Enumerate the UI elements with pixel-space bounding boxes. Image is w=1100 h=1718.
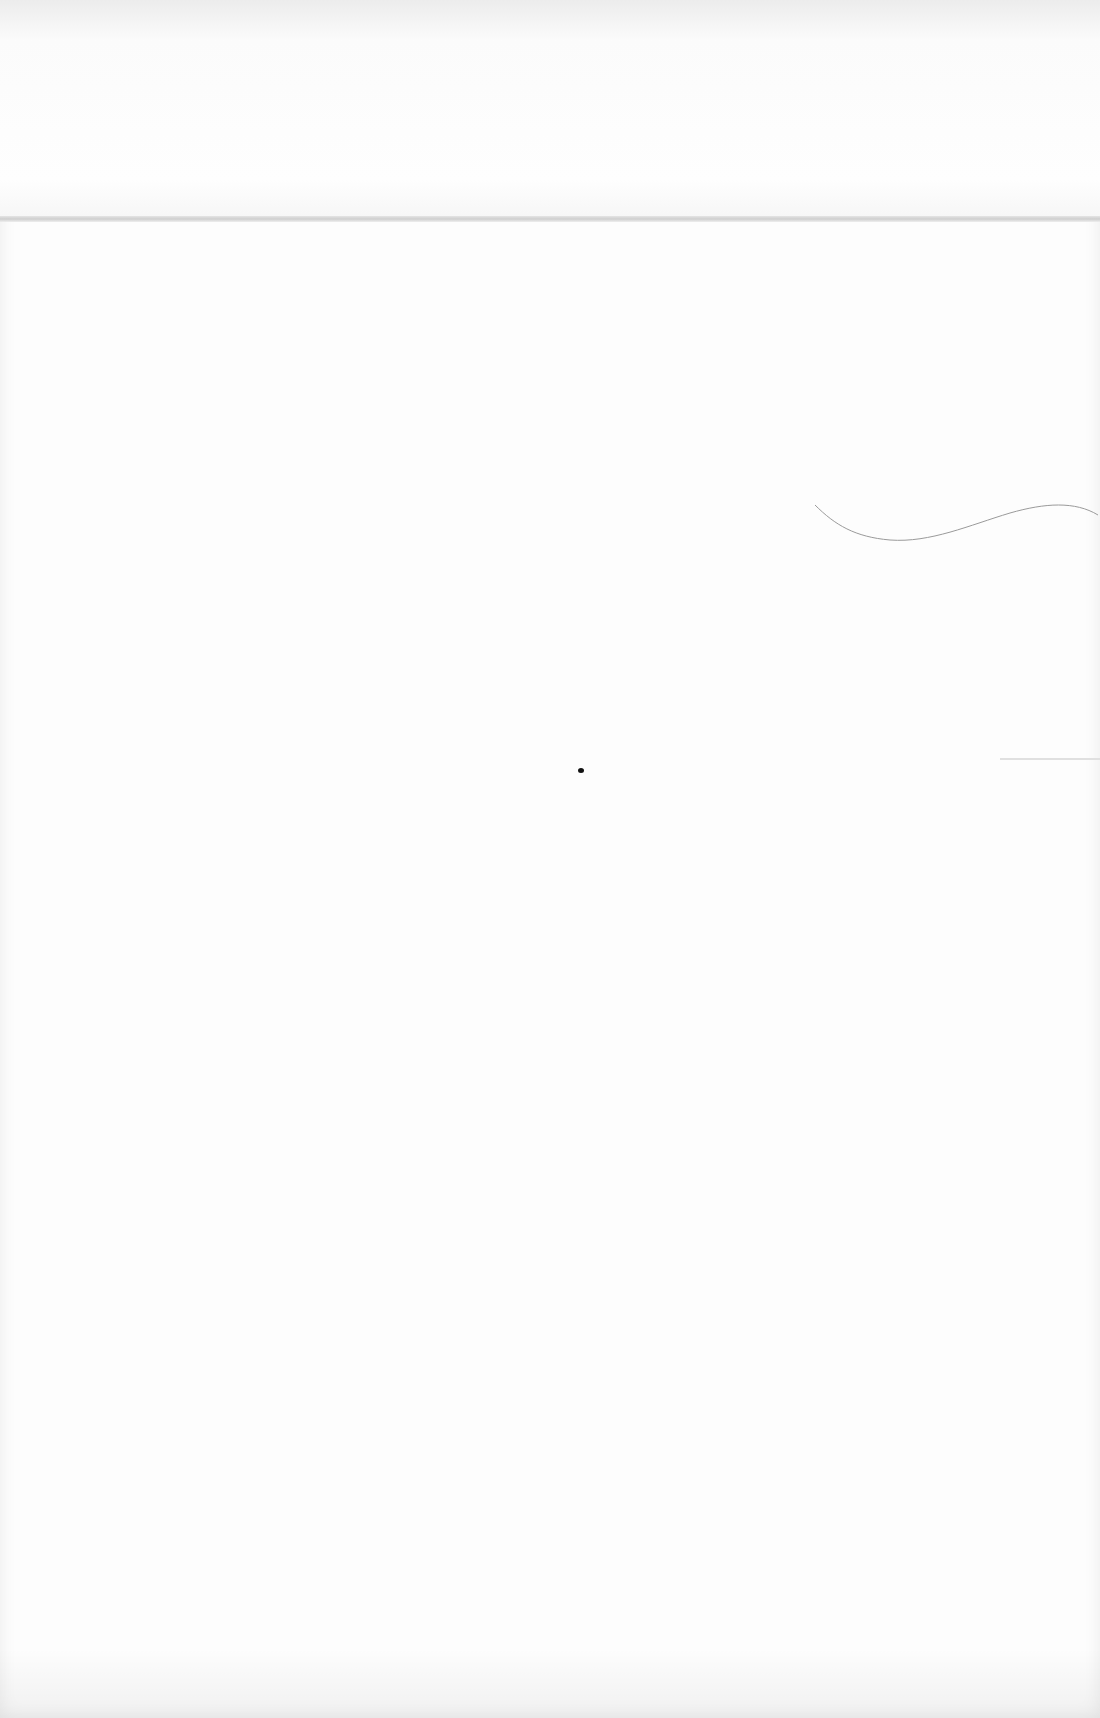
paper-fold-line [0, 216, 1100, 222]
bottom-edge-shading [0, 1648, 1100, 1718]
scanned-page [0, 0, 1100, 1718]
edge-line-mark [1000, 758, 1100, 760]
blank-page-body [40, 240, 1060, 1660]
stray-fiber-mark [810, 495, 1100, 555]
top-flap [0, 0, 1100, 218]
ink-speck [578, 768, 584, 773]
